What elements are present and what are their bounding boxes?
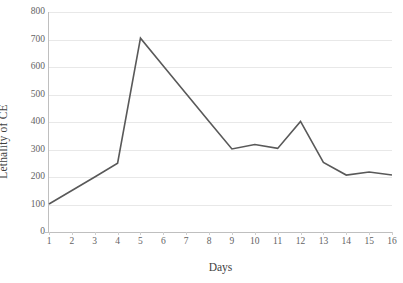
series-layer — [0, 0, 403, 283]
series-line-lethality-of-ce — [49, 38, 392, 204]
x-axis-title: Days — [49, 261, 392, 273]
x-axis-title-label: Days — [209, 261, 233, 273]
line-chart: Lethality of CE 800700600500400300200100… — [0, 0, 403, 283]
